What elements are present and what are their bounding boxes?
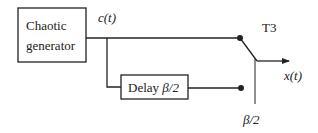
- branch-line: [107, 38, 121, 87]
- generator-label-line1: Chaotic: [26, 18, 67, 33]
- chaotic-generator-block: Chaotic generator: [18, 8, 86, 62]
- delay-block: Delay β/2: [121, 75, 188, 99]
- switch-control-label: β/2: [242, 112, 260, 127]
- switch-contact-bottom: [238, 85, 244, 91]
- signal-label-xt: x(t): [283, 68, 302, 83]
- switch-label-t3: T3: [262, 20, 276, 35]
- block-diagram: Chaotic generator c(t) Delay β/2 T3 x(t)…: [0, 0, 318, 133]
- svg-text:Delay β/2: Delay β/2: [128, 80, 179, 95]
- delay-label: Delay: [128, 80, 162, 95]
- signal-label-ct: c(t): [98, 10, 116, 25]
- generator-label-line2: generator: [26, 38, 76, 53]
- delay-param: β/2: [161, 80, 179, 95]
- switch-arm: [240, 38, 257, 61]
